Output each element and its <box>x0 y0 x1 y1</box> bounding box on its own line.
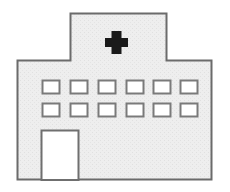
window-r2-c1 <box>43 104 60 117</box>
window-r1-c4 <box>127 81 144 94</box>
window-r2-c2 <box>71 104 88 117</box>
window-r2-c3 <box>99 104 116 117</box>
window-r1-c3 <box>99 81 116 94</box>
window-r2-c6 <box>181 104 198 117</box>
window-r1-c6 <box>181 81 198 94</box>
window-r2-c4 <box>127 104 144 117</box>
window-r2-c5 <box>154 104 171 117</box>
window-r1-c5 <box>154 81 171 94</box>
entrance-door <box>42 131 79 181</box>
window-r1-c1 <box>43 81 60 94</box>
hospital-building-illustration <box>0 0 230 192</box>
window-r1-c2 <box>71 81 88 94</box>
hospital-icon-canvas <box>0 0 230 192</box>
door-shape <box>42 131 79 181</box>
